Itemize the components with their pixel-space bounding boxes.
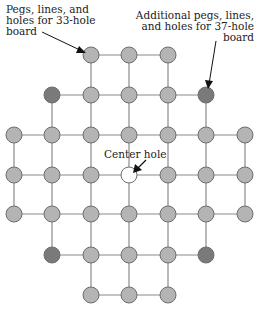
peg: [83, 87, 99, 103]
peg: [121, 247, 137, 263]
peg: [6, 167, 22, 183]
peg: [160, 127, 176, 143]
peg-37-extra: [198, 87, 214, 103]
label-37-line-3: board: [124, 32, 254, 43]
peg-37-extra: [198, 247, 214, 263]
peg: [237, 127, 253, 143]
arrow-33-head: [76, 46, 86, 53]
peg: [83, 247, 99, 263]
peg: [160, 47, 176, 63]
peg: [44, 127, 60, 143]
arrow-37-line: [209, 41, 216, 84]
peg: [121, 206, 137, 222]
label-37-hole: Additional pegs, lines, and holes for 37…: [124, 10, 254, 43]
peg: [44, 206, 60, 222]
peg: [121, 47, 137, 63]
peg: [121, 127, 137, 143]
label-33-hole: Pegs, lines, and holes for 33-hole board: [6, 4, 126, 37]
peg: [160, 167, 176, 183]
peg: [44, 167, 60, 183]
peg: [6, 127, 22, 143]
peg: [121, 87, 137, 103]
peg: [83, 127, 99, 143]
peg: [198, 206, 214, 222]
peg: [83, 47, 99, 63]
peg: [83, 206, 99, 222]
peg-37-extra: [44, 87, 60, 103]
label-center-hole: Center hole: [104, 149, 166, 160]
peg: [83, 287, 99, 303]
peg: [198, 127, 214, 143]
peg: [160, 247, 176, 263]
peg-37-extra: [44, 247, 60, 263]
peg: [121, 287, 137, 303]
peg: [237, 167, 253, 183]
peg: [198, 167, 214, 183]
peg: [237, 206, 253, 222]
peg: [160, 287, 176, 303]
peg: [160, 87, 176, 103]
label-33-line-3: board: [6, 26, 126, 37]
peg: [6, 206, 22, 222]
peg: [160, 206, 176, 222]
peg: [83, 167, 99, 183]
